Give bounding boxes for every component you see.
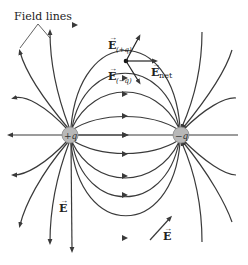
negative-charge: −q [173,127,189,143]
svg-text:(+q): (+q) [116,46,132,54]
electric-dipole-diagram: +q −q Field lines E → (+q) E → (−q) E → … [0,0,248,265]
negative-charge-label: −q [175,131,189,141]
field-lines-label: Field lines [14,10,72,23]
svg-text:net: net [159,71,173,80]
svg-text:→: → [164,224,172,233]
svg-text:→: → [60,196,68,205]
arrowheads [72,22,128,241]
svg-text:→: → [109,64,117,73]
positive-charge-outgoing-lines [10,32,72,250]
vector-e-right-label: E → [150,218,172,243]
vector-e-net-label: E → net [151,60,173,80]
field-lines-canvas: +q −q Field lines E → (+q) E → (−q) E → … [0,0,248,265]
positive-charge-label: +q [64,131,78,141]
vector-e-left-label: E → [59,196,68,215]
svg-text:→: → [109,33,117,42]
svg-text:(−q): (−q) [116,77,132,85]
vector-e-plus-label: E → (+q) [108,33,132,54]
svg-text:→: → [152,60,160,69]
field-lines-callout: Field lines [14,10,72,48]
vector-e-minus-label: E → (−q) [108,64,132,85]
negative-charge-incoming-lines [182,32,238,242]
positive-charge: +q [62,127,78,143]
